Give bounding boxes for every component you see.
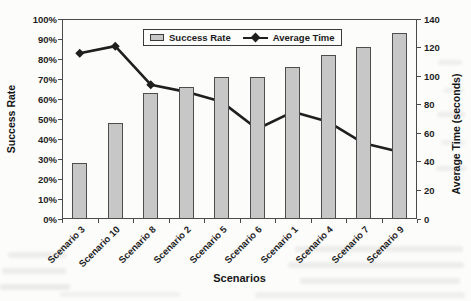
left-axis-tick — [58, 19, 62, 20]
left-axis-tick-label: 0% — [27, 214, 57, 225]
left-axis-tick — [58, 159, 62, 160]
right-axis-tick-label: 80 — [424, 99, 435, 110]
bar-scenario-2 — [179, 87, 194, 219]
x-axis-tick — [382, 219, 383, 223]
left-axis-tick-label: 100% — [27, 14, 57, 25]
x-axis-tick — [417, 219, 418, 223]
x-axis-tick — [204, 219, 205, 223]
right-axis-tick-label: 120 — [424, 42, 440, 53]
bar-scenario-5 — [214, 77, 229, 219]
x-axis-tick — [133, 219, 134, 223]
legend: Success Rate Average Time — [143, 29, 342, 46]
right-axis-tick-label: 20 — [424, 185, 435, 196]
left-axis-tick-label: 80% — [27, 54, 57, 65]
right-axis-tick — [417, 47, 421, 48]
left-axis-tick — [58, 119, 62, 120]
left-axis-tick — [58, 59, 62, 60]
left-axis-tick-label: 40% — [27, 134, 57, 145]
bar-scenario-10 — [108, 123, 123, 219]
right-axis-tick — [417, 104, 421, 105]
right-axis-tick — [417, 133, 421, 134]
right-axis-tick — [417, 161, 421, 162]
bar-scenario-6 — [250, 77, 265, 219]
x-axis-tick — [62, 219, 63, 223]
bar-scenario-9 — [392, 33, 407, 219]
left-axis-tick-label: 30% — [27, 154, 57, 165]
left-axis-tick — [58, 199, 62, 200]
bar-scenario-1 — [285, 67, 300, 219]
left-axis-tick — [58, 39, 62, 40]
left-axis-tick-label: 70% — [27, 74, 57, 85]
left-axis-tick-label: 90% — [27, 34, 57, 45]
scanned-chart-figure: Success Rate Average Time Success Rate A… — [0, 0, 471, 301]
right-axis-tick — [417, 19, 421, 20]
bar-scenario-8 — [143, 93, 158, 219]
x-axis-tick — [346, 219, 347, 223]
left-axis-tick-label: 20% — [27, 174, 57, 185]
right-axis-tick-label: 100 — [424, 71, 440, 82]
right-axis-tick — [417, 190, 421, 191]
left-axis-tick-label: 60% — [27, 94, 57, 105]
left-axis-tick — [58, 139, 62, 140]
legend-line-swatch-icon — [243, 33, 268, 43]
left-axis-tick — [58, 179, 62, 180]
bar-scenario-3 — [72, 163, 87, 219]
x-axis-tick — [98, 219, 99, 223]
right-axis-title: Average Time (seconds) — [449, 24, 463, 244]
left-axis-title: Success Rate — [4, 19, 18, 219]
bar-scenario-7 — [356, 47, 371, 219]
x-axis-tick — [240, 219, 241, 223]
left-axis-tick-label: 50% — [27, 114, 57, 125]
legend-label-average-time: Average Time — [273, 32, 335, 43]
right-axis-tick-label: 0 — [424, 214, 429, 225]
legend-diamond-marker-icon — [250, 33, 260, 43]
left-axis-tick — [58, 99, 62, 100]
left-axis-tick-label: 10% — [27, 194, 57, 205]
x-axis-tick — [275, 219, 276, 223]
right-axis-tick — [417, 76, 421, 77]
bar-scenario-4 — [321, 55, 336, 219]
legend-label-success-rate: Success Rate — [169, 32, 231, 43]
left-axis-tick — [58, 79, 62, 80]
right-axis-tick-label: 60 — [424, 128, 435, 139]
right-axis-tick-label: 40 — [424, 156, 435, 167]
x-axis-tick — [311, 219, 312, 223]
x-axis-tick — [169, 219, 170, 223]
combo-chart: Success Rate Average Time Success Rate A… — [0, 0, 471, 301]
right-axis-tick-label: 140 — [424, 14, 440, 25]
legend-bar-swatch-icon — [150, 34, 164, 41]
